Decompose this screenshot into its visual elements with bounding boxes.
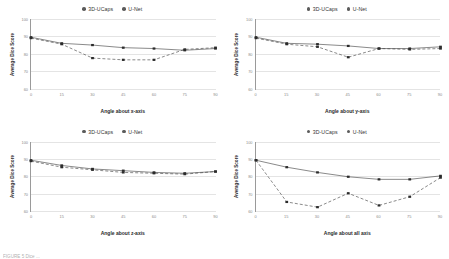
legend-item-3d-ucaps: 3D-UCaps — [307, 6, 338, 12]
data-point-marker — [214, 47, 217, 49]
x-axis-tick-label: 30 — [315, 92, 319, 97]
chart-panel-angle-about-all-axis: 3D-UCaps U-Net Average Dice Score 100908… — [225, 123, 449, 246]
legend-label: 3D-UCaps — [313, 129, 338, 135]
x-axis-tick-label: 15 — [284, 214, 288, 219]
data-point-marker — [439, 47, 442, 49]
data-point-marker — [153, 172, 156, 174]
series-layer — [256, 142, 441, 212]
data-point-marker — [439, 176, 442, 178]
legend-label: 3D-UCaps — [313, 6, 338, 12]
y-axis-tick-label: 70 — [24, 69, 28, 74]
chart-panel-angle-about-x-axis: 3D-UCaps U-Net Average Dice Score 100908… — [0, 0, 225, 123]
data-point-marker — [153, 47, 156, 49]
legend-label: U-Net — [128, 129, 142, 135]
y-axis-title: Average Dice Score — [232, 142, 242, 213]
legend-item-3d-ucaps: 3D-UCaps — [82, 129, 113, 135]
x-axis-title: Angle about y-axis — [255, 108, 441, 114]
y-axis-tick-label: 100 — [22, 17, 29, 22]
data-point-marker — [91, 44, 94, 46]
data-point-marker — [183, 48, 186, 50]
legend-label: U-Net — [353, 6, 367, 12]
x-axis-tick-label: 75 — [407, 214, 411, 219]
y-axis-title: Average Dice Score — [7, 142, 17, 213]
data-point-marker — [285, 166, 288, 168]
legend-item-3d-ucaps: 3D-UCaps — [82, 6, 113, 12]
data-point-marker — [183, 173, 186, 175]
legend-item-u-net: U-Net — [347, 129, 367, 135]
data-point-marker — [214, 170, 217, 172]
legend-item-u-net: U-Net — [122, 129, 142, 135]
circle-marker-icon — [347, 7, 351, 11]
series-line-u-net — [256, 160, 441, 207]
data-point-marker — [377, 178, 380, 180]
circle-marker-icon — [347, 130, 351, 134]
series-line-u-net — [31, 38, 216, 60]
x-axis-tick-label: 60 — [152, 214, 156, 219]
y-axis-tick-label: 100 — [246, 139, 253, 144]
data-point-marker — [122, 171, 125, 173]
legend-item-u-net: U-Net — [122, 6, 142, 12]
series-layer — [256, 19, 441, 89]
data-point-marker — [285, 43, 288, 45]
data-point-marker — [60, 166, 63, 168]
y-axis-tick-label: 70 — [248, 69, 252, 74]
data-point-marker — [408, 195, 411, 197]
x-axis-tick-label: 45 — [346, 92, 350, 97]
circle-marker-icon — [307, 130, 311, 134]
x-axis-tick-label: 90 — [213, 214, 217, 219]
chart-legend: 3D-UCaps U-Net — [225, 129, 449, 135]
x-axis-tick-label: 75 — [183, 214, 187, 219]
x-axis-tick-label: 30 — [315, 214, 319, 219]
x-axis-tick-label: 45 — [121, 92, 125, 97]
data-point-marker — [316, 43, 319, 45]
legend-label: 3D-UCaps — [88, 129, 113, 135]
y-axis-tick-label: 60 — [24, 86, 28, 91]
y-axis-tick-label: 80 — [24, 51, 28, 56]
y-axis-title: Average Dice Score — [7, 19, 17, 90]
chart-grid: 3D-UCaps U-Net Average Dice Score 100908… — [0, 0, 449, 245]
y-axis-tick-label: 70 — [248, 191, 252, 196]
y-axis-title-text: Average Dice Score — [10, 33, 15, 76]
x-axis-tick-label: 15 — [60, 92, 64, 97]
y-axis-tick-label: 60 — [24, 209, 28, 214]
plot-area: 100908070600153045607590 — [255, 142, 441, 213]
y-axis-tick-label: 80 — [248, 174, 252, 179]
y-axis-title-text: Average Dice Score — [10, 155, 15, 198]
y-axis-tick-label: 90 — [248, 156, 252, 161]
gridline — [31, 89, 216, 90]
x-axis-tick-label: 15 — [60, 214, 64, 219]
x-axis-tick-label: 75 — [183, 92, 187, 97]
data-point-marker — [60, 43, 63, 45]
data-point-marker — [346, 45, 349, 47]
data-point-marker — [346, 175, 349, 177]
legend-label: U-Net — [353, 129, 367, 135]
legend-item-3d-ucaps: 3D-UCaps — [307, 129, 338, 135]
data-point-marker — [408, 178, 411, 180]
x-axis-tick-label: 60 — [376, 92, 380, 97]
x-axis-tick-label: 90 — [438, 214, 442, 219]
chart-panel-angle-about-z-axis: 3D-UCaps U-Net Average Dice Score 100908… — [0, 123, 225, 246]
gridline — [31, 211, 216, 212]
data-point-marker — [316, 206, 319, 208]
y-axis-tick-label: 100 — [246, 17, 253, 22]
y-axis-tick-label: 80 — [24, 174, 28, 179]
data-point-marker — [346, 192, 349, 194]
data-point-marker — [91, 168, 94, 170]
chart-legend: 3D-UCaps U-Net — [0, 129, 225, 135]
data-point-marker — [346, 56, 349, 58]
circle-marker-icon — [122, 7, 126, 11]
x-axis-tick-label: 0 — [254, 92, 256, 97]
x-axis-title: Angle about z-axis — [30, 230, 216, 236]
gridline — [256, 211, 441, 212]
circle-marker-icon — [82, 7, 86, 11]
data-point-marker — [30, 160, 33, 162]
figure-container: 3D-UCaps U-Net Average Dice Score 100908… — [0, 0, 449, 259]
circle-marker-icon — [122, 130, 126, 134]
data-point-marker — [254, 159, 257, 161]
y-axis-tick-label: 60 — [248, 86, 252, 91]
plot-area: 100908070600153045607590 — [30, 19, 216, 90]
data-point-marker — [316, 171, 319, 173]
x-axis-tick-label: 0 — [30, 214, 32, 219]
legend-item-u-net: U-Net — [347, 6, 367, 12]
y-axis-tick-label: 90 — [248, 34, 252, 39]
